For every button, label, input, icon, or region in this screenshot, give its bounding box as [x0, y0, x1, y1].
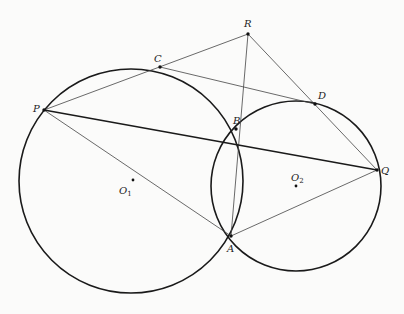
point-o1 — [132, 179, 135, 182]
segment-pr — [44, 34, 248, 110]
diagram-svg: RCDPBQAO1O2 — [0, 0, 404, 314]
segments-group — [44, 34, 377, 236]
label-o2: O2 — [291, 172, 304, 185]
label-r: R — [243, 18, 252, 29]
geometry-diagram: RCDPBQAO1O2 — [0, 0, 404, 314]
segment-aq — [231, 170, 377, 236]
label-c: C — [154, 53, 162, 64]
label-b: B — [232, 115, 240, 126]
segment-cd — [160, 67, 315, 104]
circle-o1 — [19, 69, 243, 293]
label-o1: O1 — [119, 185, 132, 198]
point-b — [234, 127, 237, 130]
point-d — [313, 102, 316, 105]
label-p: P — [32, 103, 40, 114]
segment-pa — [44, 110, 231, 236]
labels-group: RCDPBQAO1O2 — [32, 18, 389, 254]
label-a: A — [226, 243, 234, 254]
label-q: Q — [381, 165, 389, 176]
point-o2 — [295, 185, 298, 188]
circles-group — [19, 69, 381, 293]
point-c — [158, 65, 161, 68]
point-a — [229, 234, 232, 237]
point-r — [246, 32, 249, 35]
point-p — [42, 108, 45, 111]
segment-pq — [44, 110, 377, 170]
point-q — [375, 168, 378, 171]
points-group — [42, 32, 378, 237]
label-d: D — [317, 90, 326, 101]
